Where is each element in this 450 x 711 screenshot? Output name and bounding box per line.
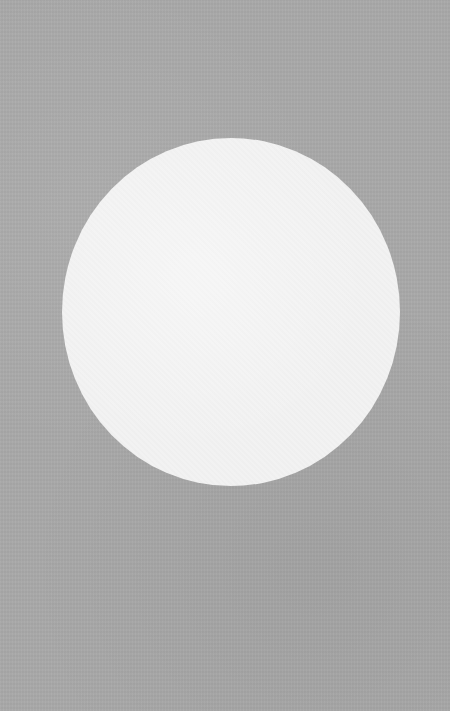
textured-gray-background	[0, 0, 450, 711]
white-circle-shape	[62, 138, 400, 486]
